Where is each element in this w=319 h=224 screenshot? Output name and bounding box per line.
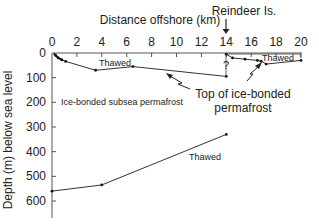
thawed-upper-label: Thawed — [99, 58, 131, 68]
x-tick-label: 8 — [148, 35, 155, 49]
top-permafrost-label-line2: permafrost — [214, 101, 272, 115]
x-tick-label: 4 — [98, 35, 105, 49]
x-tick-label: 14 — [220, 35, 234, 49]
data-point — [231, 57, 234, 60]
x-tick-label: 2 — [74, 35, 81, 49]
data-point — [300, 59, 303, 62]
x-tick-label: 20 — [294, 35, 308, 49]
x-tick-label: 18 — [269, 35, 283, 49]
data-point — [64, 60, 67, 63]
y-axis-title: Depth (m) below sea level — [1, 71, 15, 210]
leader-arrow-left — [170, 76, 190, 89]
x-tick-label: 6 — [123, 35, 130, 49]
y-tick-labels: 0100200300400500600 — [26, 46, 46, 208]
question-mark: ? — [223, 59, 229, 71]
data-point — [244, 58, 247, 61]
x-tick-label: 10 — [170, 35, 184, 49]
series-line — [56, 55, 227, 76]
x-tick-label: 16 — [245, 35, 259, 49]
y-tick-label: 300 — [26, 120, 46, 134]
x-axis-title: Distance offshore (km) — [100, 13, 221, 27]
data-point — [256, 59, 259, 62]
y-tick-label: 600 — [26, 194, 46, 208]
data-point — [51, 190, 54, 193]
data-series — [51, 53, 303, 193]
y-tick-label: 400 — [26, 145, 46, 159]
leader-arrow-right — [247, 67, 258, 81]
x-tick-label: 0 — [49, 35, 56, 49]
data-point — [265, 63, 268, 66]
permafrost-zone-label: Ice-bonded subsea permafrost — [61, 97, 184, 107]
leader-arrow-right-head-icon — [255, 62, 262, 69]
leader-arrow-left-head-icon — [166, 73, 173, 79]
data-point — [225, 133, 228, 136]
x-tick-label: 12 — [195, 35, 209, 49]
x-tick-labels: 02468101214161820 — [49, 35, 308, 49]
y-tick-label: 100 — [26, 71, 46, 85]
series-line — [52, 134, 226, 191]
island-arrow-head-icon — [223, 29, 230, 34]
y-tick-label: 0 — [39, 46, 46, 60]
y-tick-label: 200 — [26, 95, 46, 109]
island-label: Reindeer Is. — [212, 4, 277, 18]
permafrost-depth-chart: 02468101214161820 0100200300400500600 Di… — [0, 0, 319, 224]
top-permafrost-label-line1: Top of ice-bonded — [195, 87, 290, 101]
data-point — [94, 69, 97, 72]
thawed-lower-label: Thawed — [189, 152, 221, 162]
data-point — [100, 184, 103, 187]
thawed-island-label: Thawed — [262, 53, 294, 63]
data-point — [132, 65, 135, 68]
y-ticks — [52, 78, 56, 201]
y-tick-label: 500 — [26, 169, 46, 183]
